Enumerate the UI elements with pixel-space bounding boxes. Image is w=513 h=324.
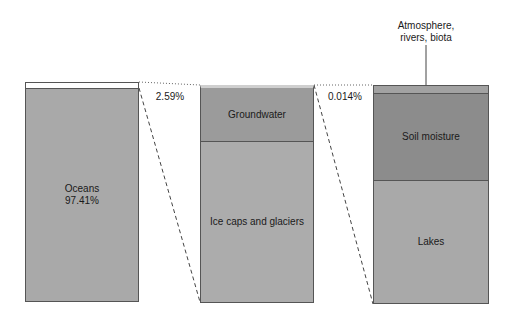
connector-bottom-1 bbox=[139, 88, 200, 302]
segment-groundwater: Groundwater bbox=[200, 85, 314, 142]
lakes-label: Lakes bbox=[418, 236, 445, 248]
connector-label-2: 0.014% bbox=[322, 91, 368, 103]
groundwater-label: Groundwater bbox=[228, 109, 286, 121]
oceans-value: 97.41% bbox=[65, 195, 99, 207]
callout-line-1: Atmosphere, bbox=[386, 20, 466, 32]
oceans-label: Oceans bbox=[65, 183, 99, 195]
segment-lakes: Lakes bbox=[373, 180, 489, 304]
callout-label: Atmosphere, rivers, biota bbox=[386, 20, 466, 44]
ice-caps-label: Ice caps and glaciers bbox=[210, 216, 304, 228]
segment-ice-caps: Ice caps and glaciers bbox=[200, 141, 314, 303]
callout-line-2: rivers, biota bbox=[386, 32, 466, 44]
connector-top-1 bbox=[139, 82, 200, 85]
segment-soil-moisture: Soil moisture bbox=[373, 93, 489, 181]
segment-oceans: Oceans 97.41% bbox=[25, 88, 139, 302]
soil-moisture-label: Soil moisture bbox=[402, 131, 460, 143]
connector-bottom-2 bbox=[314, 85, 373, 304]
connector-label-1: 2.59% bbox=[148, 91, 192, 103]
